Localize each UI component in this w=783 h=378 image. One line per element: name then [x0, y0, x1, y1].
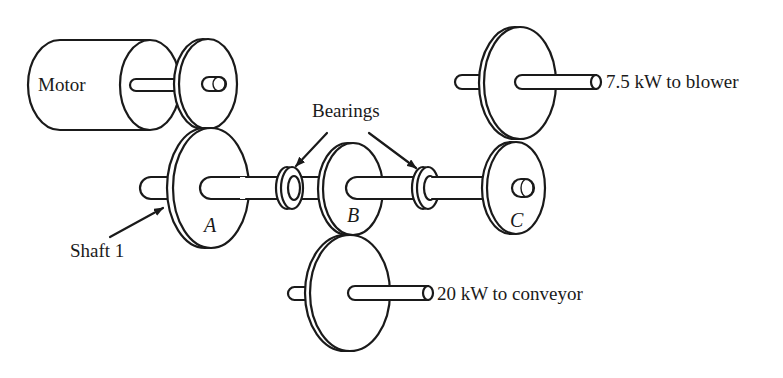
gear-c: C [482, 142, 545, 234]
conveyor-gear [288, 235, 433, 351]
conveyor-output-label: 20 kW to conveyor [437, 283, 583, 304]
gear-a-label: A [202, 214, 217, 236]
shaft-1-label: Shaft 1 [70, 240, 124, 261]
gear-b-label: B [347, 204, 359, 226]
gear-train-diagram: Motor A B [0, 0, 783, 378]
conveyor-shaft-end [423, 286, 433, 300]
bearing-left-arrow [296, 133, 327, 166]
motor-pinion-gear [174, 39, 237, 129]
bearing-left [276, 167, 303, 209]
shaft-1-arrow [110, 208, 163, 237]
blower-output-label: 7.5 kW to blower [606, 71, 739, 92]
motor-label: Motor [38, 74, 86, 95]
blower-shaft-end [591, 75, 601, 89]
gear-c-label: C [510, 209, 524, 231]
blower-gear [455, 27, 601, 139]
bearings-label: Bearings [312, 100, 380, 121]
bearing-right [412, 167, 492, 209]
